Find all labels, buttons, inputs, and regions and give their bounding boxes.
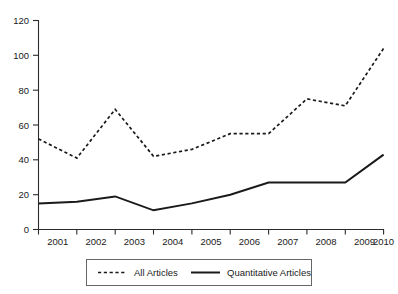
series-line-quantitative-articles (39, 155, 384, 211)
legend-label-all-articles: All Articles (134, 267, 178, 278)
y-tick-label-20: 20 (18, 189, 29, 200)
series-line-all-articles (39, 48, 384, 158)
y-tick-label-60: 60 (18, 120, 29, 131)
legend-label-quantitative-articles: Quantitative Articles (227, 267, 311, 278)
y-tick-label-80: 80 (18, 85, 29, 96)
x-tick-label-2006: 2006 (239, 236, 260, 247)
x-tick-label-2003: 2003 (124, 236, 145, 247)
x-tick-label-2010: 2010 (373, 236, 394, 247)
y-tick-label-120: 120 (13, 15, 29, 26)
y-tick-label-40: 40 (18, 154, 29, 165)
x-tick-label-2007: 2007 (277, 236, 298, 247)
x-tick-label-2009: 2009 (354, 236, 375, 247)
x-tick-label-2001: 2001 (47, 236, 68, 247)
y-axis-ticks (33, 21, 39, 230)
chart-legend: All Articles Quantitative Articles (87, 260, 312, 286)
line-chart: 120 100 80 60 40 20 0 2001 2002 2003 200… (0, 0, 398, 294)
y-tick-label-0: 0 (24, 224, 29, 235)
x-tick-label-2008: 2008 (316, 236, 337, 247)
x-tick-label-2002: 2002 (85, 236, 106, 247)
x-tick-label-2004: 2004 (162, 236, 183, 247)
x-axis-ticks (39, 230, 384, 235)
x-tick-label-2005: 2005 (201, 236, 222, 247)
chart-canvas: 120 100 80 60 40 20 0 2001 2002 2003 200… (0, 0, 398, 294)
y-tick-label-100: 100 (13, 50, 29, 61)
